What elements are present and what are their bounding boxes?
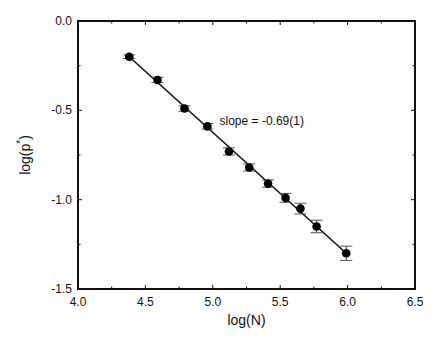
y-axis-label: log(p*) bbox=[15, 135, 33, 175]
data-points bbox=[123, 52, 352, 260]
y-tick-label: -1.0 bbox=[51, 193, 72, 207]
y-tick-label: -1.5 bbox=[51, 282, 72, 296]
slope-annotation: slope = -0.69(1) bbox=[220, 114, 304, 128]
data-point bbox=[201, 122, 213, 131]
x-tick-label: 5.0 bbox=[204, 295, 221, 309]
data-point bbox=[340, 246, 352, 260]
x-tick-label: 6.5 bbox=[407, 295, 424, 309]
x-tick-label: 4.0 bbox=[70, 295, 87, 309]
x-axis-label: log(N) bbox=[227, 312, 265, 328]
y-tick-label: 0.0 bbox=[55, 14, 72, 28]
x-tick-label: 6.0 bbox=[339, 295, 356, 309]
plot-frame bbox=[78, 21, 415, 289]
x-tick-label: 4.5 bbox=[137, 295, 154, 309]
data-point bbox=[152, 76, 164, 85]
scatter-chart: 4.04.55.05.56.06.5 0.0-0.5-1.0-1.5 slope… bbox=[0, 0, 439, 342]
y-tick-label: -0.5 bbox=[51, 103, 72, 117]
data-point bbox=[178, 104, 190, 113]
data-point bbox=[294, 203, 306, 214]
data-point bbox=[223, 147, 235, 156]
x-tick-label: 5.5 bbox=[272, 295, 289, 309]
data-point bbox=[243, 163, 255, 172]
